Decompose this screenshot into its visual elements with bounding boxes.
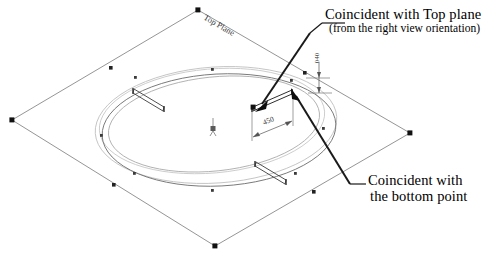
vertical-dimension: 040 [306,52,332,93]
leader-line-top-callout [255,23,345,112]
construction-ellipse-mid [95,59,329,182]
svg-text:450: 450 [261,114,275,127]
callout-top-line2: (from the right view orientation) [325,22,481,35]
top-plane-label: Top Plane [202,12,237,38]
cad-drawing: Top Plane [0,0,501,257]
svg-text:Top Plane: Top Plane [202,12,237,38]
leader-line-bottom-callout [291,88,366,184]
callout-top-line1: Coincident with Top plane [325,6,481,22]
callout-bottom-line1: Coincident with [368,172,467,188]
callout-bottom-line2: the bottom point [368,188,467,204]
slot-right-dimensioned [251,89,292,112]
slot-upper-left [133,88,164,112]
callout-bottom-point: Coincident with the bottom point [368,172,467,204]
cad-diagram-canvas: Top Plane [0,0,501,257]
origin-marker [210,118,216,136]
svg-text:040: 040 [313,52,321,63]
horizontal-dimension: 450 [252,94,293,141]
profile-ellipse-inner [104,66,325,182]
callout-top-plane: Coincident with Top plane (from the righ… [325,6,481,35]
